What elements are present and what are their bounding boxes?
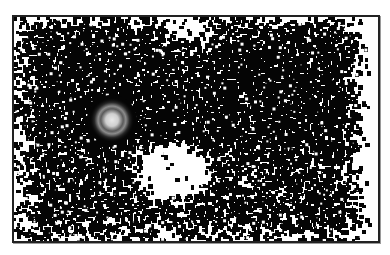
speckle-field-image [14,17,378,241]
image-frame [12,15,380,243]
